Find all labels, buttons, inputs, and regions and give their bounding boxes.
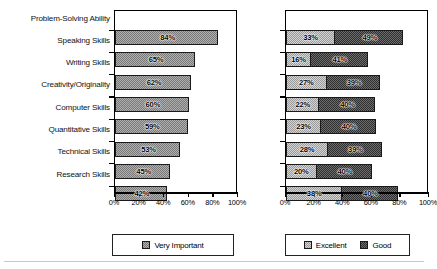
x-axis-tick-label: 20% [131,198,145,207]
legend-label: Good [372,241,391,250]
x-axis-tick-label: 100% [228,198,246,207]
bar-segment: 40% [316,165,372,178]
bar-segment: 28% [287,143,327,156]
bar: 60% [115,97,189,112]
right-legend-item[interactable]: Good [360,241,391,250]
bar-segment: 60% [116,98,189,111]
bar-value-label: 40% [337,167,352,176]
bar: 62% [115,75,191,90]
y-axis-tick [109,141,114,142]
bar-value-label: 84% [160,33,175,42]
bar-value-label: 33% [303,33,318,42]
bar-value-label: 23% [296,122,311,131]
y-axis-tick [109,186,114,187]
x-axis-tick-label: 80% [205,198,219,207]
x-axis-tick [342,192,343,197]
y-axis-tick [280,30,285,31]
bar-value-label: 65% [149,55,164,64]
bar-value-label: 40% [363,189,378,198]
bar-value-label: 39% [348,145,363,154]
bar-value-label: 60% [146,100,161,109]
legend-swatch-icon [360,241,368,249]
bar-value-label: 45% [136,167,151,176]
bar: 53% [115,142,180,157]
bar-value-label: 28% [300,145,315,154]
bar: 59% [115,119,188,134]
bar-segment: 16% [287,53,310,66]
bar-segment: 45% [116,165,170,178]
chart-panel-excellent-good: 33%49%16%41%27%39%22%40%23%40%28%39%20%4… [255,0,428,232]
bar-segment: 65% [116,53,195,66]
bar-value-label: 59% [145,122,160,131]
x-axis-tick [285,192,286,197]
chart-panel-very-important: Problem-Solving AbilitySpeaking SkillsWr… [0,0,240,232]
left-legend-item[interactable]: Very Important [142,241,203,250]
right-legend-item[interactable]: Excellent [304,241,347,250]
bar: 84% [115,30,218,45]
bar-segment: 53% [116,143,180,156]
y-axis-tick [280,141,285,142]
bar-segment: 40% [318,98,374,111]
bar-segment: 20% [287,165,316,178]
y-axis-tick [280,96,285,97]
x-axis-tick [237,192,238,197]
category-label: Computer Skills [56,99,110,117]
bar: 33%49% [286,30,403,45]
bar-segment: 39% [326,76,381,89]
bar-value-label: 16% [291,55,306,64]
bar-segment: 39% [327,143,382,156]
category-label: Technical Skills [58,143,110,161]
bar-segment: 27% [287,76,326,89]
bar: 65% [115,52,195,67]
category-label: Speaking Skills [57,32,110,50]
x-axis-tick [163,192,164,197]
bar: 20%40% [286,164,372,179]
bar: 27%39% [286,75,380,90]
x-axis-tick-label: 80% [392,198,406,207]
bar-segment: 22% [287,98,318,111]
bar: 28%39% [286,142,382,157]
y-axis-tick [280,119,285,120]
category-label: Writing Skills [66,54,110,72]
bar-value-label: 40% [340,100,355,109]
x-axis-tick [114,192,115,197]
y-axis-tick [109,119,114,120]
x-axis-tick-label: 20% [306,198,320,207]
bar-segment: 23% [287,120,320,133]
x-axis-tick-label: 60% [181,198,195,207]
y-axis-tick [109,30,114,31]
bar: 45% [115,164,170,179]
bar: 16%41% [286,52,368,67]
x-axis-tick [428,192,429,197]
x-axis-tick-label: 40% [156,198,170,207]
bar-segment: 41% [310,53,368,66]
plot-area-left: 84%65%62%60%59%53%45%42% [114,10,237,192]
legend-label: Very Important [154,241,203,250]
category-axis-labels-left: Problem-Solving AbilitySpeaking SkillsWr… [0,0,112,192]
bar-value-label: 49% [362,33,377,42]
y-axis-tick [280,52,285,53]
category-label: Research Skills [56,166,110,184]
footer-rule [4,261,424,262]
x-axis-tick-label: 0% [109,198,119,207]
y-axis-tick [280,163,285,164]
y-axis-tick [109,52,114,53]
x-axis-tick-label: 100% [419,198,437,207]
x-axis-tick [188,192,189,197]
bar-segment: 59% [116,120,188,133]
y-axis-tick [109,96,114,97]
bar-value-label: 41% [332,55,347,64]
bar-value-label: 20% [294,167,309,176]
bar-value-label: 27% [299,78,314,87]
bar-segment: 33% [287,31,334,44]
x-axis-tick [399,192,400,197]
plot-area-right: 33%49%16%41%27%39%22%40%23%40%28%39%20%4… [285,10,428,192]
bar-segment: 40% [320,120,376,133]
legend-swatch-icon [142,241,150,249]
y-axis-tick [280,186,285,187]
legend-right: ExcellentGood [285,234,410,256]
category-label: Problem-Solving Ability [31,10,110,28]
bar-segment: 84% [116,31,218,44]
bar-value-label: 42% [135,189,150,198]
